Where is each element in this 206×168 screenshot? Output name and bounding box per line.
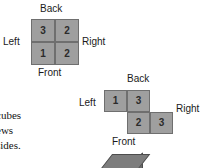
top-cell-r1c1: 2 (55, 42, 79, 65)
body-text-line-3: sides. (0, 138, 21, 153)
top-label-back: Back (40, 4, 62, 14)
top-label-right: Right (82, 37, 105, 47)
middle-cell-r0c1: 3 (127, 90, 150, 112)
middle-cell-r0c0: 1 (104, 90, 127, 112)
middle-cell-r1c1: 2 (127, 112, 150, 134)
middle-label-left: Left (79, 98, 96, 108)
middle-label-back: Back (127, 74, 149, 84)
top-label-front: Front (38, 68, 61, 78)
middle-label-right: Right (176, 104, 199, 114)
top-cell-r0c1: 2 (55, 19, 79, 42)
body-text-line-1: cubes (0, 108, 21, 123)
top-label-left: Left (3, 37, 20, 47)
middle-cell-r1c2: 3 (150, 112, 173, 134)
top-cell-r1c0: 1 (31, 42, 55, 65)
body-text-line-2: ews (0, 123, 13, 138)
isometric-cube-icon (98, 154, 154, 168)
top-cell-r0c0: 3 (31, 19, 55, 42)
middle-label-front: Front (112, 137, 135, 147)
figure-canvas: Back Left Right 3 2 1 2 Front Back Left … (0, 0, 206, 168)
